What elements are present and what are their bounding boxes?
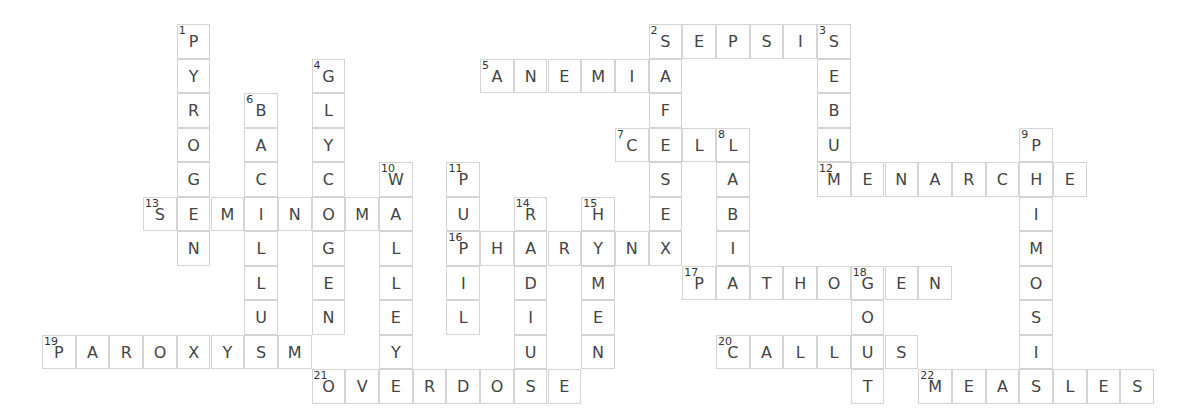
- crossword-cell[interactable]: O: [817, 266, 851, 301]
- crossword-cell[interactable]: C: [244, 162, 278, 197]
- crossword-cell[interactable]: I: [1019, 197, 1053, 232]
- crossword-cell[interactable]: I: [514, 300, 548, 335]
- crossword-cell[interactable]: R: [109, 335, 143, 370]
- crossword-cell[interactable]: E: [682, 24, 716, 59]
- crossword-cell[interactable]: O: [480, 369, 514, 404]
- crossword-cell[interactable]: I: [783, 24, 817, 59]
- crossword-cell[interactable]: M: [581, 59, 615, 94]
- crossword-cell[interactable]: A: [379, 197, 413, 232]
- crossword-cell[interactable]: L: [312, 93, 346, 128]
- crossword-cell[interactable]: A: [244, 128, 278, 163]
- crossword-cell[interactable]: 12M: [817, 162, 851, 197]
- crossword-cell[interactable]: B: [716, 197, 750, 232]
- crossword-cell[interactable]: 13S: [143, 197, 177, 232]
- crossword-cell[interactable]: S: [649, 162, 683, 197]
- crossword-cell[interactable]: 8L: [716, 128, 750, 163]
- crossword-cell[interactable]: I: [446, 266, 480, 301]
- crossword-cell[interactable]: 3S: [817, 24, 851, 59]
- crossword-cell[interactable]: Y: [581, 231, 615, 266]
- crossword-cell[interactable]: E: [885, 266, 919, 301]
- crossword-cell[interactable]: 18G: [851, 266, 885, 301]
- crossword-cell[interactable]: A: [716, 266, 750, 301]
- crossword-cell[interactable]: S: [244, 335, 278, 370]
- crossword-cell[interactable]: M: [581, 266, 615, 301]
- crossword-cell[interactable]: R: [952, 162, 986, 197]
- crossword-cell[interactable]: E: [548, 59, 582, 94]
- crossword-cell[interactable]: O: [851, 300, 885, 335]
- crossword-cell[interactable]: U: [514, 335, 548, 370]
- crossword-cell[interactable]: E: [379, 369, 413, 404]
- crossword-cell[interactable]: 6B: [244, 93, 278, 128]
- crossword-cell[interactable]: D: [514, 266, 548, 301]
- crossword-cell[interactable]: E: [649, 197, 683, 232]
- crossword-cell[interactable]: 20C: [716, 335, 750, 370]
- crossword-cell[interactable]: 21O: [312, 369, 346, 404]
- crossword-cell[interactable]: E: [649, 128, 683, 163]
- crossword-cell[interactable]: L: [682, 128, 716, 163]
- crossword-cell[interactable]: S: [750, 24, 784, 59]
- crossword-cell[interactable]: P: [716, 24, 750, 59]
- crossword-cell[interactable]: E: [851, 162, 885, 197]
- crossword-cell[interactable]: 7C: [615, 128, 649, 163]
- crossword-cell[interactable]: 1P: [177, 24, 211, 59]
- crossword-cell[interactable]: 10W: [379, 162, 413, 197]
- crossword-cell[interactable]: 4G: [312, 59, 346, 94]
- crossword-cell[interactable]: A: [514, 231, 548, 266]
- crossword-cell[interactable]: S: [1120, 369, 1154, 404]
- crossword-cell[interactable]: X: [177, 335, 211, 370]
- crossword-cell[interactable]: U: [851, 335, 885, 370]
- crossword-cell[interactable]: 14R: [514, 197, 548, 232]
- crossword-cell[interactable]: O: [312, 197, 346, 232]
- crossword-cell[interactable]: 15H: [581, 197, 615, 232]
- crossword-cell[interactable]: L: [379, 231, 413, 266]
- crossword-cell[interactable]: H: [783, 266, 817, 301]
- crossword-cell[interactable]: H: [1019, 162, 1053, 197]
- crossword-cell[interactable]: S: [885, 335, 919, 370]
- crossword-cell[interactable]: M: [211, 197, 245, 232]
- crossword-cell[interactable]: L: [1053, 369, 1087, 404]
- crossword-cell[interactable]: A: [918, 162, 952, 197]
- crossword-cell[interactable]: Y: [177, 59, 211, 94]
- crossword-cell[interactable]: N: [581, 335, 615, 370]
- crossword-cell[interactable]: E: [817, 59, 851, 94]
- crossword-cell[interactable]: O: [143, 335, 177, 370]
- crossword-cell[interactable]: 16P: [446, 231, 480, 266]
- crossword-cell[interactable]: L: [817, 335, 851, 370]
- crossword-cell[interactable]: 5A: [480, 59, 514, 94]
- crossword-cell[interactable]: V: [345, 369, 379, 404]
- crossword-cell[interactable]: E: [312, 266, 346, 301]
- crossword-cell[interactable]: N: [918, 266, 952, 301]
- crossword-cell[interactable]: C: [986, 162, 1020, 197]
- crossword-cell[interactable]: Y: [379, 335, 413, 370]
- crossword-cell[interactable]: N: [514, 59, 548, 94]
- crossword-cell[interactable]: M: [1019, 231, 1053, 266]
- crossword-cell[interactable]: G: [177, 162, 211, 197]
- crossword-cell[interactable]: L: [244, 231, 278, 266]
- crossword-cell[interactable]: E: [952, 369, 986, 404]
- crossword-cell[interactable]: R: [177, 93, 211, 128]
- crossword-cell[interactable]: I: [1019, 335, 1053, 370]
- crossword-cell[interactable]: E: [548, 369, 582, 404]
- crossword-cell[interactable]: O: [1019, 266, 1053, 301]
- crossword-cell[interactable]: Y: [312, 128, 346, 163]
- crossword-cell[interactable]: I: [244, 197, 278, 232]
- crossword-cell[interactable]: N: [312, 300, 346, 335]
- crossword-cell[interactable]: D: [446, 369, 480, 404]
- crossword-cell[interactable]: U: [446, 197, 480, 232]
- crossword-cell[interactable]: A: [76, 335, 110, 370]
- crossword-cell[interactable]: R: [413, 369, 447, 404]
- crossword-cell[interactable]: U: [244, 300, 278, 335]
- crossword-cell[interactable]: U: [817, 128, 851, 163]
- crossword-cell[interactable]: 17P: [682, 266, 716, 301]
- crossword-cell[interactable]: A: [750, 335, 784, 370]
- crossword-cell[interactable]: Y: [211, 335, 245, 370]
- crossword-cell[interactable]: X: [649, 231, 683, 266]
- crossword-cell[interactable]: C: [312, 162, 346, 197]
- crossword-cell[interactable]: E: [1053, 162, 1087, 197]
- crossword-cell[interactable]: N: [885, 162, 919, 197]
- crossword-cell[interactable]: H: [480, 231, 514, 266]
- crossword-cell[interactable]: L: [446, 300, 480, 335]
- crossword-cell[interactable]: A: [986, 369, 1020, 404]
- crossword-cell[interactable]: N: [615, 231, 649, 266]
- crossword-cell[interactable]: O: [177, 128, 211, 163]
